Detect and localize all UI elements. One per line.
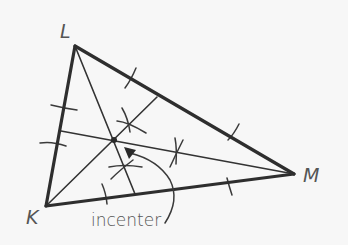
side-lm: [75, 46, 294, 174]
arc-cross-m-1: [175, 138, 176, 164]
incenter-diagram: L K M incenter: [0, 0, 348, 245]
incenter-label: incenter: [91, 210, 161, 230]
vertex-label-l: L: [60, 20, 71, 42]
vertex-label-m: M: [303, 164, 319, 186]
angle-bisectors: [46, 46, 294, 206]
bisector-from-L: [75, 46, 135, 194]
arc-mark-km-1: [102, 184, 107, 204]
incenter-point: [111, 137, 117, 143]
triangle-klm: [46, 46, 294, 206]
vertex-label-k: K: [26, 206, 40, 228]
arc-mark-kl-2: [40, 142, 66, 146]
arrowhead-icon: [124, 147, 136, 159]
